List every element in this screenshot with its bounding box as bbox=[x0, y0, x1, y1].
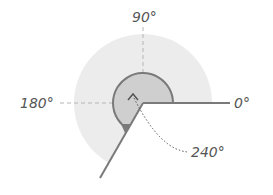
label-90: 90° bbox=[132, 9, 157, 25]
angle-diagram: 90° 180° 0° 240° bbox=[0, 0, 273, 195]
label-240: 240° bbox=[191, 144, 225, 160]
label-180: 180° bbox=[20, 95, 54, 111]
label-0: 0° bbox=[234, 95, 250, 111]
